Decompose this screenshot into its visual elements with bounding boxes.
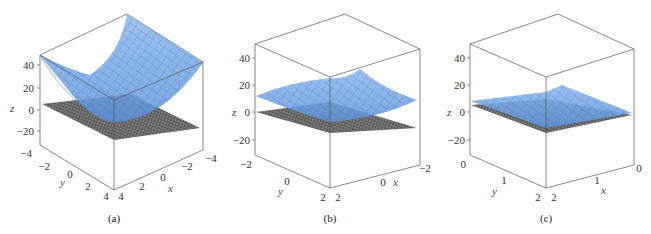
y-tick-c-2: 2 [535,191,541,203]
x-label-a: x [167,182,173,194]
z-tick-c-neg20: −20 [448,134,466,146]
y-tick-a-3: 2 [85,180,91,192]
panel-c: 40 20 0 −20 z 0 1 2 y 2 1 0 x (c) [446,14,642,225]
z-tick-a-20: 20 [23,82,35,94]
y-tick-c-1: 1 [501,174,507,186]
x-tick-b-1: 0 [380,176,386,188]
panel-b: 40 20 0 −20 z −2 0 2 y 2 0 −2 x (b) [231,14,431,225]
y-tick-a-0: −4 [20,147,32,159]
y-tick-a-2: 0 [67,168,73,180]
z-label-c: z [446,106,452,118]
y-tick-a-4: 4 [103,190,109,202]
y-tick-b-2: 2 [320,191,326,203]
z-tick-b-40: 40 [239,52,251,64]
y-tick-c-0: 0 [461,158,467,170]
z-tick-b-0: 0 [245,106,251,118]
y-label-a: y [59,176,65,188]
x-tick-a-4: −4 [205,152,217,164]
x-tick-a-0: 4 [118,190,124,202]
z-tick-c-20: 20 [454,79,466,91]
z-tick-a-40: 40 [23,59,35,71]
z-label-a: z [9,102,15,114]
x-tick-a-3: −2 [181,160,193,172]
x-label-c: x [600,184,606,196]
panel-a: 40 20 0 −20 z −4 −2 0 2 4 y 4 2 0 −2 −4 … [9,14,217,225]
z-tick-a-0: 0 [29,104,35,116]
caption-c: (c) [540,212,553,225]
x-tick-b-0: 2 [335,191,341,203]
x-tick-c-1: 1 [594,174,600,186]
y-tick-a-1: −2 [38,160,50,172]
z-tick-c-40: 40 [454,52,466,64]
x-tick-c-0: 2 [551,191,557,203]
y-tick-b-1: 0 [284,175,290,187]
z-tick-c-0: 0 [460,106,466,118]
y-label-b: y [277,185,283,197]
y-tick-b-0: −2 [240,158,252,170]
z-tick-a-neg20: −20 [17,125,35,137]
x-tick-c-2: 0 [636,162,642,174]
z-tick-b-20: 20 [239,79,251,91]
caption-a: (a) [108,212,121,225]
z-tick-b-neg20: −20 [233,134,251,146]
x-tick-a-1: 2 [139,180,145,192]
figure: 40 20 0 −20 z −4 −2 0 2 4 y 4 2 0 −2 −4 … [0,0,651,234]
caption-b: (b) [324,212,337,225]
x-tick-a-2: 0 [160,171,166,183]
y-label-c: y [491,185,497,197]
x-tick-b-2: −2 [419,162,431,174]
x-label-b: x [392,176,398,188]
z-label-b: z [231,106,237,118]
